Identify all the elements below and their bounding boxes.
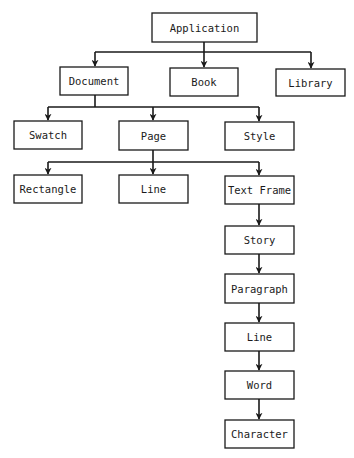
node-label: Character — [231, 428, 288, 440]
node-word: Word — [225, 371, 294, 399]
node-line-shape: Line — [119, 175, 188, 203]
node-character: Character — [225, 420, 294, 448]
node-label: Word — [247, 379, 272, 391]
node-label: Application — [170, 22, 240, 34]
node-label: Document — [69, 75, 120, 87]
node-label: Line — [141, 183, 166, 195]
node-rectangle: Rectangle — [14, 175, 82, 203]
node-paragraph: Paragraph — [225, 274, 294, 303]
node-application: Application — [152, 13, 257, 42]
node-label: Style — [244, 130, 276, 142]
node-document: Document — [60, 67, 128, 95]
node-label: Paragraph — [231, 283, 288, 295]
node-label: Library — [288, 77, 332, 89]
node-label: Text Frame — [228, 184, 291, 196]
node-label: Story — [244, 234, 276, 246]
edges-page — [48, 150, 259, 175]
node-line-text: Line — [225, 323, 294, 351]
edges-application — [95, 42, 311, 68]
node-library: Library — [276, 69, 345, 96]
node-label: Rectangle — [20, 183, 77, 195]
hierarchy-diagram: Application Document Book Library Swatch… — [0, 0, 354, 458]
node-text-frame: Text Frame — [225, 176, 294, 204]
node-book: Book — [170, 68, 238, 96]
node-page: Page — [119, 121, 188, 150]
node-story: Story — [225, 226, 294, 254]
node-label: Book — [191, 76, 217, 88]
node-label: Page — [141, 130, 166, 142]
node-label: Swatch — [29, 129, 67, 141]
edges-document — [48, 95, 259, 121]
node-style: Style — [225, 122, 294, 150]
node-label: Line — [247, 331, 272, 343]
node-swatch: Swatch — [14, 121, 82, 149]
